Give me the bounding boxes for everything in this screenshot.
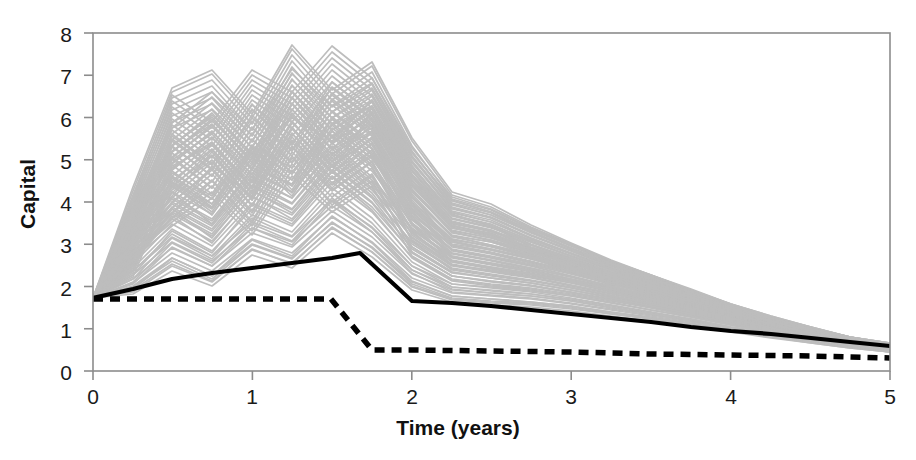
ytick-label-6: 6 <box>44 109 72 130</box>
capital-vs-time-plot <box>0 0 916 460</box>
x-axis-title: Time (years) <box>0 416 916 440</box>
xtick-label-0: 0 <box>73 386 113 407</box>
ytick-label-4: 4 <box>44 193 72 214</box>
x-axis-ticks <box>93 371 890 380</box>
xtick-label-3: 3 <box>551 386 591 407</box>
xtick-label-4: 4 <box>711 386 751 407</box>
ytick-label-1: 1 <box>44 320 72 341</box>
y-axis-ticks <box>84 33 93 371</box>
ytick-label-8: 8 <box>44 24 72 45</box>
ytick-label-7: 7 <box>44 66 72 87</box>
y-axis-title: Capital <box>16 144 40 244</box>
xtick-label-1: 1 <box>232 386 272 407</box>
ytick-label-3: 3 <box>44 235 72 256</box>
ytick-label-2: 2 <box>44 278 72 299</box>
xtick-label-2: 2 <box>392 386 432 407</box>
ytick-label-0: 0 <box>44 362 72 383</box>
chart-figure: 0 1 2 3 4 5 6 7 8 0 1 2 3 4 5 Time (year… <box>0 0 916 460</box>
ytick-label-5: 5 <box>44 151 72 172</box>
xtick-label-5: 5 <box>870 386 910 407</box>
